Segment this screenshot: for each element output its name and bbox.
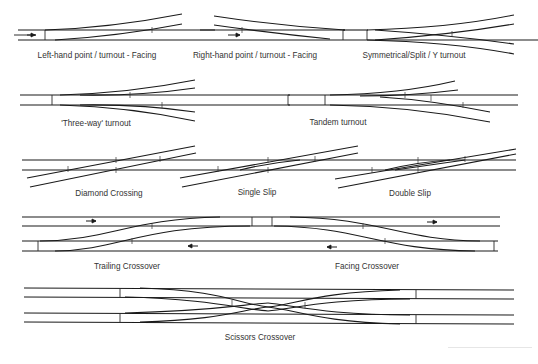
- facing-crossover-diagram: [274, 217, 494, 251]
- label-double-slip: Double Slip: [389, 189, 431, 198]
- label-diamond-crossing: Diamond Crossing: [75, 189, 142, 198]
- left-hand-turnout-diagram: [18, 14, 538, 40]
- direction-arrow-left-icon: [188, 244, 198, 248]
- diamond-crossing-diagram: [27, 146, 196, 187]
- direction-arrow-right-icon: [228, 33, 240, 37]
- direction-arrow-left-icon: [327, 245, 337, 249]
- symmetrical-turnout-diagram: [343, 15, 514, 54]
- label-three-way-turnout: 'Three-way' turnout: [61, 119, 131, 128]
- trailing-crossover-diagram: [38, 217, 250, 251]
- faint-divider: [448, 347, 532, 348]
- direction-arrow-right-icon: [86, 219, 96, 223]
- label-trailing-crossover: Trailing Crossover: [94, 262, 160, 271]
- label-facing-crossover: Facing Crossover: [335, 262, 399, 271]
- three-way-turnout-diagram: [20, 80, 290, 121]
- label-right-hand-turnout: Right-hand point / turnout - Facing: [193, 51, 317, 60]
- right-hand-turnout-diagram: [200, 16, 345, 40]
- label-scissors-crossover: Scissors Crossover: [225, 333, 296, 342]
- single-slip-diagram: [180, 146, 358, 187]
- label-symmetrical-turnout: Symmetrical/Split / Y turnout: [363, 51, 466, 60]
- double-slip-diagram: [335, 149, 516, 188]
- direction-arrow-right-icon: [14, 33, 36, 37]
- label-tandem-turnout: Tandem turnout: [310, 118, 367, 127]
- scissors-crossover-diagram: [24, 288, 514, 324]
- label-left-hand-turnout: Left-hand point / turnout - Facing: [38, 51, 157, 60]
- tandem-turnout-diagram: [288, 81, 518, 122]
- direction-arrow-right-icon: [427, 220, 437, 224]
- label-single-slip: Single Slip: [238, 188, 277, 197]
